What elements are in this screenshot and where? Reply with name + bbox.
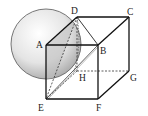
edge-GF bbox=[98, 71, 129, 99]
label-H: H bbox=[79, 73, 86, 83]
label-F: F bbox=[96, 103, 101, 113]
label-D: D bbox=[71, 6, 78, 16]
label-G: G bbox=[130, 73, 137, 83]
label-A: A bbox=[36, 40, 43, 50]
label-E: E bbox=[38, 103, 44, 113]
edge-CB bbox=[98, 17, 129, 45]
cube-sphere-diagram: A B C D E F G H bbox=[0, 0, 148, 116]
label-C: C bbox=[127, 7, 133, 17]
label-B: B bbox=[100, 46, 106, 56]
